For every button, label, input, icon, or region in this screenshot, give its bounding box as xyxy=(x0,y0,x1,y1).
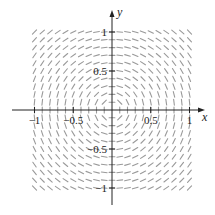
slope-segment xyxy=(33,38,37,42)
slope-segment xyxy=(148,171,153,174)
slope-segment xyxy=(150,92,152,97)
slope-segment xyxy=(125,47,131,48)
slope-segment xyxy=(41,68,44,73)
slope-segment xyxy=(117,63,123,64)
slope-segment xyxy=(101,164,107,165)
slope-segment xyxy=(41,84,43,90)
y-axis-arrow-icon xyxy=(110,10,115,17)
slope-segment xyxy=(48,154,51,159)
slope-segment xyxy=(125,78,130,81)
y-tick-label: −0.5 xyxy=(87,143,107,155)
slope-segment xyxy=(117,141,123,142)
slope-segment xyxy=(33,68,36,73)
slope-segment xyxy=(125,148,130,150)
slope-segment xyxy=(80,92,83,97)
slope-segment xyxy=(140,179,145,181)
slope-segment xyxy=(79,131,82,136)
slope-segment xyxy=(133,54,138,56)
slope-segment xyxy=(172,178,176,182)
slope-segment xyxy=(71,38,76,41)
slope-segment xyxy=(64,69,68,73)
slope-segment xyxy=(188,178,192,182)
slope-segment xyxy=(40,170,44,174)
slope-segment xyxy=(79,69,84,73)
slope-segment xyxy=(181,139,183,144)
slope-segment xyxy=(55,30,60,33)
slope-segment xyxy=(173,139,176,144)
slope-segment xyxy=(49,76,52,81)
slope-segment xyxy=(79,155,84,158)
slope-segment xyxy=(40,38,44,42)
slope-segment xyxy=(181,76,183,81)
slope-segment xyxy=(78,31,83,33)
slope-segment xyxy=(141,77,145,81)
slope-segment xyxy=(117,148,123,149)
slope-segment xyxy=(157,139,160,144)
slope-segment xyxy=(87,85,91,89)
slope-segment xyxy=(34,84,36,90)
slope-segment xyxy=(157,69,161,73)
slope-segment xyxy=(48,186,53,190)
slope-segment xyxy=(125,85,130,88)
slope-segment xyxy=(64,76,67,81)
slope-segment xyxy=(102,132,108,134)
slope-segment xyxy=(87,123,90,128)
slope-segment xyxy=(165,123,167,129)
slope-segment xyxy=(94,180,100,181)
slope-segment xyxy=(125,124,129,128)
slope-segment xyxy=(32,30,36,34)
slope-segment xyxy=(188,170,192,175)
slope-segment xyxy=(165,139,168,144)
slope-segment xyxy=(165,84,167,89)
slope-segment xyxy=(181,92,182,98)
slope-segment xyxy=(134,115,136,121)
slope-segment xyxy=(164,53,168,57)
slope-segment xyxy=(63,179,68,182)
slope-segment xyxy=(88,115,90,121)
slope-segment xyxy=(94,85,99,88)
slope-segment xyxy=(149,77,153,82)
slope-segment xyxy=(140,46,145,49)
slope-segment xyxy=(71,163,76,166)
slope-segment xyxy=(63,31,68,34)
slope-segment xyxy=(164,163,168,167)
slope-segment xyxy=(71,31,76,34)
slope-segment xyxy=(55,186,60,189)
slope-segment xyxy=(149,147,153,151)
slope-segment xyxy=(78,171,83,174)
slope-segment xyxy=(33,45,37,50)
y-tick-label: 1 xyxy=(102,26,108,38)
y-tick-label: −1 xyxy=(95,182,107,194)
x-tick-label: −1 xyxy=(29,114,41,126)
slope-segment xyxy=(71,46,76,49)
slope-segment xyxy=(148,38,153,41)
slope-segment xyxy=(133,148,138,151)
slope-segment xyxy=(158,99,159,105)
slope-segment xyxy=(134,92,137,97)
slope-segment xyxy=(102,124,107,127)
slope-segment xyxy=(117,86,123,88)
slope-segment xyxy=(94,156,100,158)
slope-segment xyxy=(48,147,51,152)
slope-segment xyxy=(40,186,44,190)
slope-segment xyxy=(188,76,190,81)
slope-segment xyxy=(173,76,176,81)
slope-segment xyxy=(79,139,83,143)
slope-segment xyxy=(134,99,136,105)
slope-segment xyxy=(140,39,145,41)
slope-segment xyxy=(72,131,75,136)
slope-segment xyxy=(117,180,123,181)
slope-segment xyxy=(117,78,123,79)
slope-segment xyxy=(71,171,76,174)
slope-segment xyxy=(33,139,35,144)
slope-segment xyxy=(181,123,182,129)
slope-segment xyxy=(158,92,160,98)
slope-segment xyxy=(133,47,138,49)
slope-segment xyxy=(56,53,60,57)
slope-segment xyxy=(71,187,76,190)
slope-segment xyxy=(78,187,83,189)
slope-segment xyxy=(181,115,182,121)
slope-segment xyxy=(180,146,183,151)
slope-segment xyxy=(42,99,43,105)
slope-segment xyxy=(94,31,100,32)
